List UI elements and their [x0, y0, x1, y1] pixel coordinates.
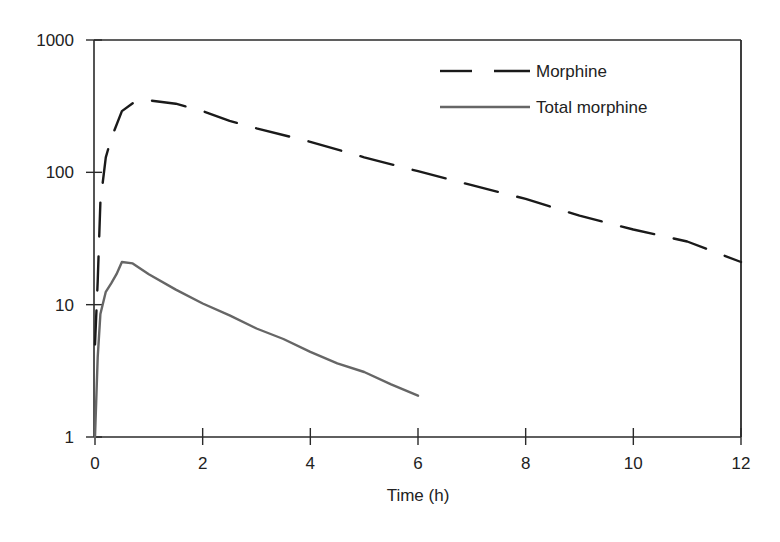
y-tick-label: 10: [55, 296, 74, 315]
x-tick-label: 2: [198, 454, 207, 473]
x-tick-label: 4: [306, 454, 315, 473]
x-axis-ticks: 024681012: [90, 428, 750, 473]
y-axis-ticks: 1101001000: [36, 31, 102, 447]
chart-canvas: 1101001000 024681012 Time (h) Morphine T…: [0, 0, 780, 542]
y-tick-label: 1: [65, 428, 74, 447]
x-tick-label: 12: [732, 454, 751, 473]
series-layer: [95, 100, 741, 437]
y-tick-label: 1000: [36, 31, 74, 50]
x-tick-label: 0: [90, 454, 99, 473]
x-tick-label: 8: [521, 454, 530, 473]
x-tick-label: 6: [413, 454, 422, 473]
x-tick-label: 10: [624, 454, 643, 473]
x-axis-title: Time (h): [387, 486, 450, 505]
legend-label-total-morphine: Total morphine: [536, 98, 648, 117]
y-tick-label: 100: [46, 163, 74, 182]
legend-label-morphine: Morphine: [536, 62, 607, 81]
series-line-morphine: [95, 100, 741, 344]
legend: Morphine Total morphine: [440, 62, 648, 117]
series-line-total-morphine: [95, 262, 418, 437]
